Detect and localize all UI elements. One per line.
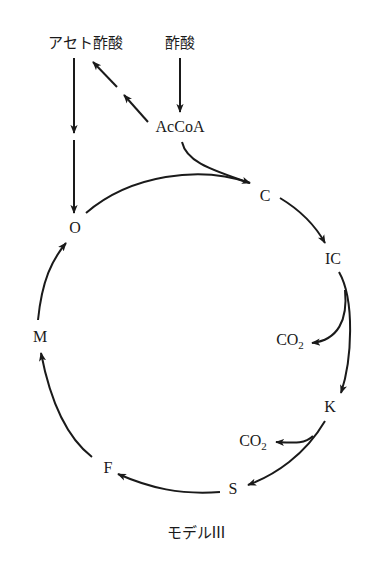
node-f: F	[104, 460, 113, 476]
node-accoa: AcCoA	[156, 119, 205, 135]
arrow-accoa-to-acetoacetate-1	[124, 95, 148, 122]
co2-upper-main: CO	[276, 331, 298, 348]
node-co2-lower: CO2	[239, 433, 267, 449]
arrow-m-to-o	[38, 243, 66, 320]
arrow-o-to-c	[86, 174, 250, 213]
co2-lower-subscript: 2	[261, 440, 267, 452]
arrow-accoa-to-c	[182, 142, 250, 183]
node-co2-upper: CO2	[276, 332, 304, 348]
node-m: M	[33, 329, 47, 345]
node-ic: IC	[325, 251, 341, 267]
arrow-ic-to-co2	[312, 290, 346, 343]
diagram-caption: モデルIII	[167, 526, 225, 541]
co2-lower-main: CO	[239, 432, 261, 449]
node-s: S	[229, 481, 238, 497]
node-acetate: 酢酸	[165, 36, 195, 51]
arrow-s-to-f	[118, 474, 220, 493]
node-o: O	[69, 220, 81, 236]
cycle-diagram-canvas	[0, 0, 370, 564]
arrow-k-to-co2	[276, 436, 313, 443]
arrow-c-to-ic	[280, 198, 325, 243]
arrow-f-to-m	[41, 353, 92, 457]
node-c: C	[260, 188, 271, 204]
arrow-accoa-to-acetoacetate-2	[93, 62, 117, 87]
node-acetoacetate: アセト酢酸	[48, 36, 123, 51]
arrow-k-to-s	[248, 421, 325, 485]
node-k: K	[324, 399, 336, 415]
co2-upper-subscript: 2	[298, 339, 304, 351]
